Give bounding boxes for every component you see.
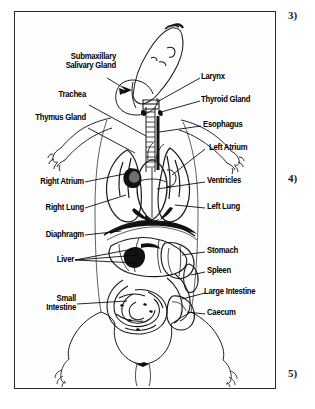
label-right-atrium: Right Atrium bbox=[13, 177, 84, 186]
margin-marker-3: 3) bbox=[288, 9, 297, 21]
label-small-intestine: Small Intestine bbox=[22, 294, 76, 313]
label-right-lung: Right Lung bbox=[15, 203, 84, 212]
label-left-atrium: Left Atrium bbox=[209, 143, 247, 152]
margin-marker-5: 5) bbox=[288, 367, 297, 379]
label-liver: Liver bbox=[20, 255, 74, 264]
label-diaphragm: Diaphragm bbox=[15, 230, 84, 239]
label-spleen: Spleen bbox=[207, 266, 231, 275]
label-thymus-gland: Thymus Gland bbox=[13, 113, 86, 122]
label-larynx: Larynx bbox=[201, 72, 225, 81]
label-trachea: Trachea bbox=[28, 90, 86, 99]
label-submaxillary-salivary-gland: Submaxillary Salivary Gland bbox=[30, 52, 116, 71]
label-thyroid-gland: Thyroid Gland bbox=[201, 95, 250, 104]
label-line: Intestine bbox=[46, 302, 76, 312]
figure-page: 3) 4) 5) bbox=[0, 0, 315, 409]
label-ventricles: Ventricles bbox=[207, 176, 241, 185]
label-caecum: Caecum bbox=[207, 308, 236, 317]
label-stomach: Stomach bbox=[207, 246, 238, 255]
label-line: Salivary Gland bbox=[66, 60, 116, 70]
margin-marker-4: 4) bbox=[288, 172, 297, 184]
label-left-lung: Left Lung bbox=[207, 202, 240, 211]
label-large-intestine: Large Intestine bbox=[204, 287, 255, 296]
label-esophagus: Esophagus bbox=[203, 120, 242, 129]
